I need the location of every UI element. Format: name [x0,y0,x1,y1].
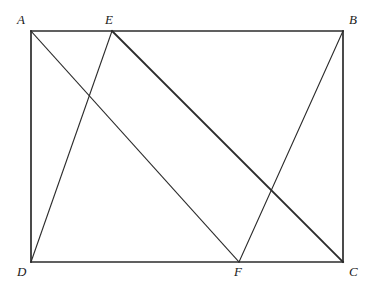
vertex-label-B: B [349,13,357,26]
segment-EC [112,31,343,262]
figure-canvas [0,0,371,289]
vertex-label-A: A [17,13,25,26]
vertex-label-C: C [349,265,358,278]
vertex-label-D: D [17,265,26,278]
segment-AF [31,31,239,262]
vertex-label-F: F [234,265,242,278]
geometry-figure: A B C D E F [0,0,371,289]
segments-group [31,31,343,262]
segment-BF [239,31,343,262]
vertex-label-E: E [105,13,113,26]
segment-ED [31,31,112,262]
